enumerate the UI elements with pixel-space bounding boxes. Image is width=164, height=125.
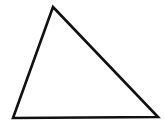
canvas-background xyxy=(0,0,164,125)
triangle-figure-canvas xyxy=(0,0,164,125)
triangle-svg xyxy=(0,0,164,125)
